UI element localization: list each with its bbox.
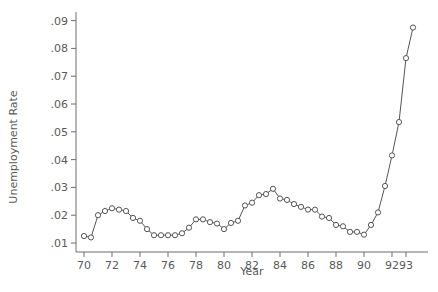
y-axis: .01.02.03.04.05.06.07.08.09 — [51, 12, 77, 252]
x-tick-label: 80 — [217, 259, 231, 272]
data-point-marker — [165, 233, 170, 238]
data-point-marker — [88, 235, 93, 240]
data-point-marker — [144, 227, 149, 232]
data-point-marker — [326, 215, 331, 220]
data-point-marker — [368, 222, 373, 227]
data-point-marker — [291, 201, 296, 206]
data-point-marker — [158, 233, 163, 238]
data-point-marker — [410, 25, 415, 30]
data-point-marker — [221, 227, 226, 232]
data-point-marker — [361, 232, 366, 237]
data-point-marker — [277, 196, 282, 201]
data-point-marker — [207, 220, 212, 225]
data-point-marker — [382, 183, 387, 188]
data-point-marker — [340, 224, 345, 229]
data-point-marker — [375, 210, 380, 215]
data-point-marker — [347, 229, 352, 234]
data-point-marker — [305, 207, 310, 212]
data-point-marker — [214, 221, 219, 226]
x-tick-label: 78 — [189, 259, 203, 272]
x-tick-label: 93 — [399, 259, 413, 272]
x-tick-label: 84 — [273, 259, 287, 272]
y-tick-label: .04 — [51, 154, 69, 167]
data-point-marker — [242, 203, 247, 208]
data-point-marker — [249, 200, 254, 205]
y-tick-label: .01 — [51, 237, 69, 250]
x-tick-label: 88 — [329, 259, 343, 272]
data-point-marker — [109, 206, 114, 211]
series-line — [84, 28, 413, 238]
x-tick-label: 92 — [385, 259, 399, 272]
data-point-marker — [396, 119, 401, 124]
data-point-marker — [95, 213, 100, 218]
data-point-marker — [298, 204, 303, 209]
data-point-marker — [389, 153, 394, 158]
data-point-marker — [319, 214, 324, 219]
x-tick-label: 74 — [133, 259, 147, 272]
data-point-marker — [179, 231, 184, 236]
data-point-marker — [172, 233, 177, 238]
data-point-marker — [403, 56, 408, 61]
data-point-marker — [193, 217, 198, 222]
y-tick-label: .09 — [51, 15, 69, 28]
data-point-marker — [270, 186, 275, 191]
y-tick-label: .02 — [51, 209, 69, 222]
x-tick-label: 86 — [301, 259, 315, 272]
data-point-marker — [354, 229, 359, 234]
plot-area — [81, 25, 415, 240]
x-tick-label: 72 — [105, 259, 119, 272]
data-point-marker — [81, 233, 86, 238]
x-tick-label: 90 — [357, 259, 371, 272]
y-tick-label: .06 — [51, 98, 69, 111]
y-tick-label: .05 — [51, 126, 69, 139]
y-tick-label: .03 — [51, 181, 69, 194]
x-tick-label: 70 — [77, 259, 91, 272]
data-point-marker — [263, 191, 268, 196]
x-tick-label: 76 — [161, 259, 175, 272]
data-point-marker — [186, 225, 191, 230]
data-point-marker — [284, 197, 289, 202]
data-point-marker — [151, 233, 156, 238]
data-point-marker — [200, 217, 205, 222]
data-point-marker — [123, 208, 128, 213]
data-point-marker — [235, 218, 240, 223]
data-point-marker — [228, 220, 233, 225]
data-point-marker — [130, 215, 135, 220]
unemployment-line-chart: .01.02.03.04.05.06.07.08.09 707274767880… — [0, 0, 438, 292]
data-point-marker — [312, 207, 317, 212]
data-point-marker — [116, 207, 121, 212]
y-tick-label: .07 — [51, 70, 69, 83]
data-point-marker — [256, 193, 261, 198]
data-point-marker — [333, 222, 338, 227]
y-axis-title: Unemployment Rate — [7, 90, 20, 204]
data-point-marker — [102, 208, 107, 213]
x-axis-title: Year — [239, 265, 264, 278]
y-tick-label: .08 — [51, 42, 69, 55]
data-point-marker — [137, 218, 142, 223]
